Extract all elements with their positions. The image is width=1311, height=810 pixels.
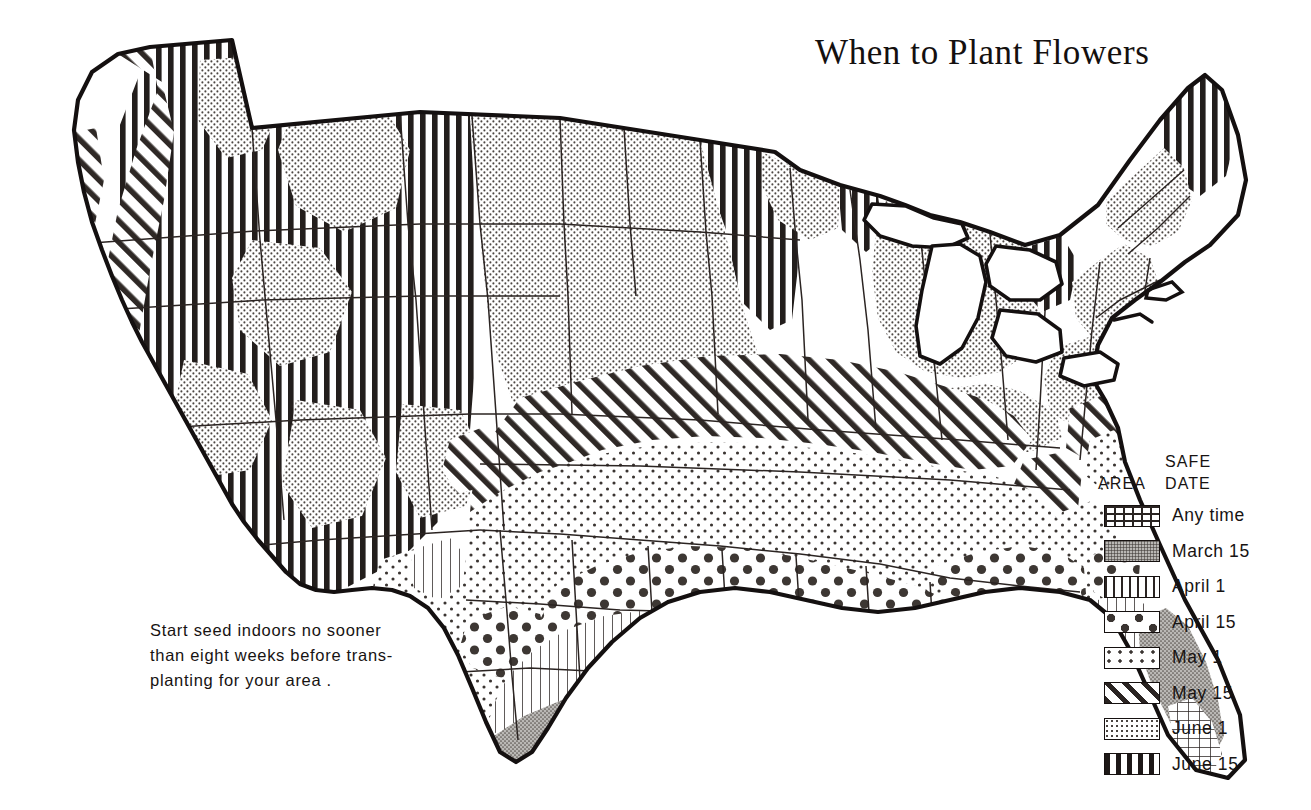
legend-row-april-15[interactable]: April 15 [1098, 605, 1303, 641]
note-line-3: planting for your area . [150, 668, 480, 693]
legend-swatch-dense-stipple-icon [1104, 540, 1160, 562]
page-title: When to Plant Flowers [815, 33, 1275, 73]
legend-header: AREA SAFE DATE [1098, 452, 1303, 498]
legend-swatch-large-dots-icon [1104, 611, 1160, 633]
legend-swatch-sparse-dots-icon [1104, 647, 1160, 669]
legend-swatch-diagonal-stripes-icon [1104, 682, 1160, 704]
legend-label-april-15: April 15 [1172, 612, 1236, 633]
legend-header-date: DATE [1165, 475, 1211, 493]
legend-header-safe: SAFE [1165, 453, 1211, 471]
legend-row-may-15[interactable]: May 15 [1098, 676, 1303, 712]
legend-label-june-15: June 15 [1172, 754, 1238, 775]
legend-label-april-1: April 1 [1172, 576, 1226, 597]
legend-swatch-vertical-thin-icon [1104, 576, 1160, 598]
legend-row-june-15[interactable]: June 15 [1098, 747, 1303, 783]
page-root: When to Plant Flowers Start seed indoors… [0, 0, 1311, 810]
legend-swatch-medium-stipple-icon [1104, 718, 1160, 740]
legend-header-area: AREA [1098, 475, 1146, 493]
note-line-1: Start seed indoors no sooner [150, 618, 480, 643]
legend-row-may-1[interactable]: May 1 [1098, 640, 1303, 676]
legend-label-june-1: June 1 [1172, 718, 1228, 739]
legend-label-any-time: Any time [1172, 505, 1245, 526]
note-line-2: than eight weeks before trans- [150, 643, 480, 668]
legend-row-any-time[interactable]: Any time [1098, 498, 1303, 534]
legend-row-march-15[interactable]: March 15 [1098, 534, 1303, 570]
legend-label-march-15: March 15 [1172, 541, 1250, 562]
legend-swatch-grid-icon [1104, 505, 1160, 527]
map-legend: AREA SAFE DATE Any time March 15 April 1… [1098, 452, 1303, 782]
instruction-note: Start seed indoors no sooner than eight … [150, 618, 480, 693]
legend-label-may-1: May 1 [1172, 647, 1223, 668]
legend-swatch-vertical-bold-icon [1104, 753, 1160, 775]
legend-row-june-1[interactable]: June 1 [1098, 711, 1303, 747]
legend-label-may-15: May 15 [1172, 683, 1233, 704]
legend-row-april-1[interactable]: April 1 [1098, 569, 1303, 605]
